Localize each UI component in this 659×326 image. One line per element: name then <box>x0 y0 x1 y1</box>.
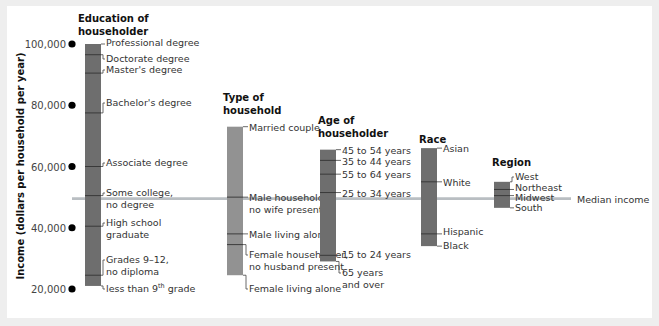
category-label: 25 to 34 years <box>342 188 411 199</box>
category-label: Asian <box>443 143 469 154</box>
category-label: no degree <box>106 199 154 210</box>
group-title: Region <box>492 157 531 168</box>
category-label: no husband present <box>249 261 344 272</box>
category-label: Black <box>443 240 469 251</box>
y-tick-label: 80,000 <box>31 100 66 111</box>
category-label: Female living alone <box>249 283 341 294</box>
category-label: and over <box>342 279 384 290</box>
category-label: Associate degree <box>106 157 188 168</box>
category-label: 15 to 24 years <box>342 249 411 260</box>
y-tick-label: 60,000 <box>31 162 66 173</box>
category-label: 45 to 54 years <box>342 145 411 156</box>
leader-line <box>101 223 105 226</box>
group-title: householder <box>78 26 148 37</box>
leader-line <box>101 103 105 113</box>
range-bar <box>421 148 437 246</box>
category-label: 65 years <box>342 267 383 278</box>
y-axis-label: Income (dollars per household per year) <box>15 52 26 279</box>
leader-line <box>243 245 248 255</box>
category-label: Some college, <box>106 187 173 198</box>
leader-line <box>101 260 105 275</box>
category-label: White <box>443 177 471 188</box>
leader-line <box>243 275 248 289</box>
category-label: no diploma <box>106 266 159 277</box>
range-bar <box>85 44 101 286</box>
group-title: household <box>223 105 281 116</box>
category-label: West <box>515 171 539 182</box>
y-tick-label: 40,000 <box>31 223 66 234</box>
category-label: less than 9th grade <box>106 282 196 294</box>
median-income-label: Median income <box>577 194 650 205</box>
category-label: Grades 9–12, <box>106 254 169 265</box>
category-label: no wife present <box>249 204 323 215</box>
group-title: Education of <box>78 13 149 24</box>
category-label: Married couple <box>249 122 320 133</box>
category-label: Hispanic <box>443 226 483 237</box>
leader-line <box>101 286 105 289</box>
category-label: Professional degree <box>106 37 200 48</box>
y-tick-dot-icon <box>68 102 75 109</box>
category-label: High school <box>106 217 161 228</box>
category-label: South <box>515 202 543 213</box>
category-label: graduate <box>106 229 149 240</box>
leader-line <box>510 177 514 182</box>
y-tick-dot-icon <box>68 163 75 170</box>
category-label: Bachelor's degree <box>106 97 192 108</box>
leader-line <box>101 163 105 167</box>
leader-line <box>101 193 105 196</box>
range-bar <box>227 127 243 276</box>
category-label: Doctorate degree <box>106 53 190 64</box>
category-label: Master's degree <box>106 64 182 75</box>
group-title: Type of <box>223 92 264 103</box>
group-title: Age of <box>318 115 355 126</box>
y-tick-dot-icon <box>68 40 75 47</box>
y-tick-dot-icon <box>68 285 75 292</box>
range-bar <box>320 150 336 262</box>
range-bar <box>494 182 510 208</box>
category-label: 55 to 64 years <box>342 169 411 180</box>
category-label: Male living alone <box>249 229 329 240</box>
y-tick-label: 100,000 <box>25 39 66 50</box>
group-title: householder <box>318 128 388 139</box>
leader-line <box>101 70 105 73</box>
y-tick-label: 20,000 <box>31 284 66 295</box>
category-label: 35 to 44 years <box>342 156 411 167</box>
y-tick-dot-icon <box>68 224 75 231</box>
income-range-chart: Income (dollars per household per year)1… <box>0 0 659 326</box>
leader-line <box>101 55 105 59</box>
